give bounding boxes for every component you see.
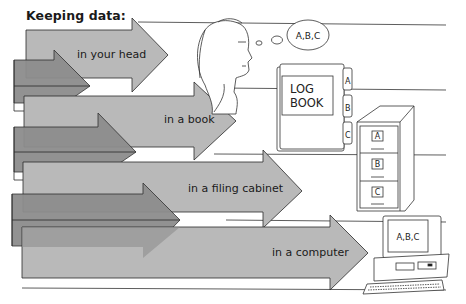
- filing-cabinet-icon: A B C: [357, 106, 414, 211]
- log-book-tab-c: C: [345, 131, 351, 140]
- log-book-cover-line2: BOOK: [290, 96, 324, 110]
- filing-cabinet-drawer-a: A: [375, 132, 381, 141]
- diagram-svg: A,B,C LOG BOOK A B C A B C A,B,C: [0, 0, 466, 304]
- diagram-title: Keeping data:: [26, 8, 126, 23]
- thought-bubble-text: A,B,C: [296, 31, 320, 41]
- computer-icon: A,B,C: [363, 216, 449, 294]
- log-book-cover-line1: LOG: [290, 82, 314, 96]
- diagram-canvas: A,B,C LOG BOOK A B C A B C A,B,C: [0, 0, 466, 304]
- computer-screen-text: A,B,C: [397, 232, 420, 242]
- label-in-a-computer: in a computer: [272, 246, 349, 259]
- log-book-tab-b: B: [345, 104, 351, 113]
- label-in-a-filing-cabinet: in a filing cabinet: [188, 182, 283, 195]
- label-in-a-book: in a book: [164, 113, 215, 126]
- log-book-icon: LOG BOOK A B C: [277, 64, 352, 151]
- filing-cabinet-drawer-b: B: [375, 160, 381, 169]
- filing-cabinet-drawer-c: C: [375, 188, 381, 197]
- label-in-your-head: in your head: [77, 48, 146, 61]
- thought-bubble: A,B,C: [256, 20, 329, 50]
- log-book-tab-a: A: [345, 77, 351, 86]
